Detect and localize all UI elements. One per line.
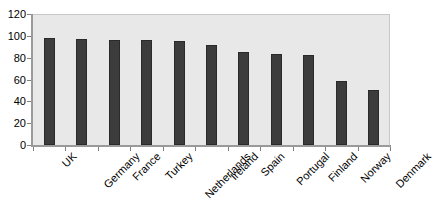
x-axis-tick-mark <box>65 147 66 151</box>
y-axis-tick-label: 100 <box>8 30 26 41</box>
x-axis-tick-mark <box>228 147 229 151</box>
bar <box>271 54 282 145</box>
x-axis-tick-label: Denmark <box>393 150 433 190</box>
plot-area <box>33 14 390 145</box>
x-axis-tick-label: UK <box>60 150 79 169</box>
x-axis-tick-mark <box>390 147 391 151</box>
bar <box>238 52 249 145</box>
bar <box>109 40 120 145</box>
bar <box>303 55 314 145</box>
x-axis-tick-label: Portugal <box>294 150 331 187</box>
x-axis-tick-mark <box>163 147 164 151</box>
x-axis-tick-mark <box>98 147 99 151</box>
x-axis-line <box>31 145 391 147</box>
bar <box>174 41 185 145</box>
x-axis-tick-mark <box>33 147 34 151</box>
x-axis-tick-mark <box>260 147 261 151</box>
bar <box>368 90 379 145</box>
bar <box>44 38 55 145</box>
y-axis-tick-label: 60 <box>14 74 26 85</box>
x-axis-tick-mark <box>293 147 294 151</box>
y-axis-tick-label: 40 <box>14 96 26 107</box>
x-axis: UKGermanyFranceTurkeyNetherlandsIrelandS… <box>0 150 412 213</box>
bars-layer <box>33 15 389 145</box>
x-axis-tick-mark <box>325 147 326 151</box>
x-axis-tick-mark <box>130 147 131 151</box>
bar <box>141 40 152 145</box>
y-axis-tick-label: 120 <box>8 9 26 20</box>
x-axis-tick-label: Turkey <box>162 150 194 182</box>
bar <box>336 81 347 145</box>
y-axis-tick-label: 80 <box>14 52 26 63</box>
bar <box>76 39 87 145</box>
x-axis-tick-label: Finland <box>325 150 359 184</box>
x-axis-tick-label: Norway <box>358 150 393 185</box>
y-axis-tick-label: 0 <box>20 140 26 151</box>
x-axis-tick-mark <box>195 147 196 151</box>
x-axis-tick-mark <box>358 147 359 151</box>
y-axis: 020406080100120 <box>0 0 31 160</box>
bar <box>206 45 217 145</box>
x-axis-tick-label: Spain <box>258 150 286 178</box>
y-axis-tick-label: 20 <box>14 118 26 129</box>
